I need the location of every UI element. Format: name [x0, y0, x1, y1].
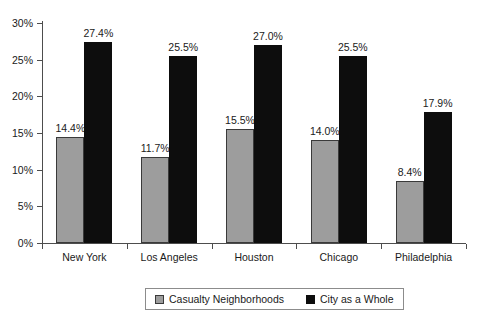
bar-value-label: 25.5% [328, 42, 378, 53]
legend-label: City as a Whole [320, 294, 394, 305]
y-axis-tick-label: 0% [0, 238, 33, 249]
legend-entry-city-as-a-whole: City as a Whole [306, 294, 394, 305]
x-axis-tick [42, 244, 43, 249]
y-axis-tick-label: 20% [0, 91, 33, 102]
x-axis-line [42, 243, 466, 244]
legend-label: Casualty Neighborhoods [169, 294, 284, 305]
legend-swatch-icon [306, 295, 315, 304]
y-axis-tick-label: 25% [0, 55, 33, 66]
bar-city-new-york [84, 42, 112, 243]
x-axis-tick [466, 244, 467, 249]
x-axis-tick [127, 244, 128, 249]
x-axis-category-label: Philadelphia [374, 252, 474, 263]
chart-legend: Casualty Neighborhoods City as a Whole [145, 288, 404, 310]
plot-area: 14.4%27.4%11.7%25.5%15.5%27.0%14.0%25.5%… [42, 23, 466, 243]
bar-value-label: 17.9% [413, 98, 463, 109]
y-axis-tick-label: 30% [0, 18, 33, 29]
bar-city-chicago [339, 56, 367, 243]
bar-casualty-new-york [56, 137, 84, 243]
bar-casualty-houston [226, 129, 254, 243]
y-axis-tick-label: 15% [0, 128, 33, 139]
bar-value-label: 27.4% [73, 28, 123, 39]
bar-city-los-angeles [169, 56, 197, 243]
bar-casualty-los-angeles [141, 157, 169, 243]
y-axis-tick-label: 5% [0, 201, 33, 212]
x-axis-tick [296, 244, 297, 249]
bar-casualty-philadelphia [396, 181, 424, 243]
bar-value-label: 25.5% [158, 42, 208, 53]
bar-chart: 0%5%10%15%20%25%30% 14.4%27.4%11.7%25.5%… [0, 0, 486, 323]
bar-value-label: 27.0% [243, 31, 293, 42]
x-axis-tick [381, 244, 382, 249]
legend-entry-casualty-neighborhoods: Casualty Neighborhoods [155, 294, 284, 305]
bar-casualty-chicago [311, 140, 339, 243]
legend-swatch-icon [155, 295, 164, 304]
x-axis-tick [212, 244, 213, 249]
bar-city-philadelphia [424, 112, 452, 243]
bar-city-houston [254, 45, 282, 243]
y-axis-tick-label: 10% [0, 165, 33, 176]
